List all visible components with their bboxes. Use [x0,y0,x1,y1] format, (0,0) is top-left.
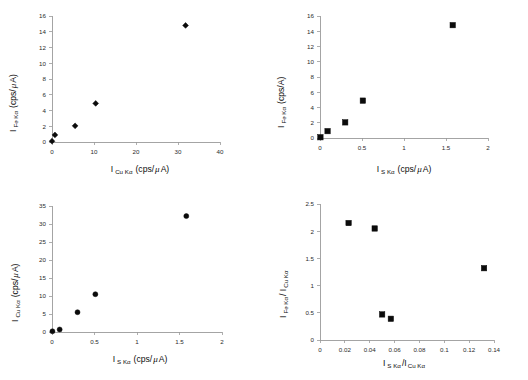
data-point-marker [372,226,377,231]
x-tick-label: 1.5 [175,338,184,345]
y-tick-label: 14 [39,28,46,35]
y-tick-label: 6 [43,91,47,98]
ticklabels-bottom-right: 00.020.040.060.080.10.120.1400.511.522.5 [305,200,500,353]
x-axis-title-bottom-right: IS Kα/ICu Kα [383,358,425,369]
data-point-marker [50,329,55,334]
x-tick-label: 0.02 [339,346,352,353]
ticklabels-top-left: 0102030400246810121416 [39,12,224,155]
y-axis-title-top-right: IFe Kα(cps/A) [276,77,287,128]
plot-top-left: 0102030400246810121416 ICu Kα(cps/μA) IF… [0,0,264,190]
data-point-marker [346,220,351,225]
y-tick-label: 0 [43,138,47,145]
y-tick-label: 2.5 [305,200,314,207]
y-tick-label: 0.5 [305,309,314,316]
y-tick-label: 10 [39,60,46,67]
panel-bottom-left: 00.511.5205101520253035 IS Kα(cps/μA) IC… [0,190,264,380]
y-tick-label: 25 [39,238,46,245]
data-point-marker [72,123,78,129]
ticklabels-bottom-left: 00.511.5205101520253035 [39,202,224,345]
y-tick-label: 1 [311,282,315,289]
axes-bottom-left [49,206,222,335]
x-tick-label: 0.08 [413,346,426,353]
data-point-marker [184,214,189,219]
x-tick-label: 20 [133,148,140,155]
ticklabels-top-right: 00.511.520246810121416 [307,12,490,151]
data-point-marker [360,98,365,103]
y-tick-label: 35 [39,202,46,209]
y-tick-label: 15 [39,274,46,281]
x-tick-label: 0.5 [358,144,367,151]
y-tick-label: 10 [39,292,46,299]
x-tick-label: 0 [50,338,54,345]
y-tick-label: 5 [43,310,47,317]
y-tick-label: 20 [39,256,46,263]
y-tick-label: 6 [311,89,315,96]
y-tick-label: 2 [311,228,315,235]
data-points-bottom-left [50,214,189,334]
y-tick-label: 2 [43,123,47,130]
x-tick-label: 1.5 [442,144,451,151]
y-tick-label: 0 [311,134,315,141]
data-point-marker [343,120,348,125]
panel-top-left: 0102030400246810121416 ICu Kα(cps/μA) IF… [0,0,264,190]
y-axis-title-bottom-right: IFe Kα/ ICu Kα [278,270,289,318]
y-tick-label: 16 [307,12,314,19]
x-tick-label: 0 [50,148,54,155]
y-tick-label: 12 [307,43,314,50]
y-tick-label: 16 [39,12,46,19]
x-tick-label: 30 [175,148,182,155]
four-panel-scatter-figure: 0102030400246810121416 ICu Kα(cps/μA) IF… [0,0,528,380]
x-tick-label: 0 [318,144,322,151]
x-tick-label: 0.06 [389,346,402,353]
panel-bottom-right: 00.020.040.060.080.10.120.1400.511.522.5… [264,190,528,380]
y-tick-label: 0 [311,336,315,343]
y-tick-label: 8 [311,73,315,80]
y-tick-label: 1.5 [305,255,314,262]
y-tick-label: 12 [39,44,46,51]
axes-bottom-right [317,204,494,343]
x-tick-label: 1 [402,144,406,151]
data-point-marker [318,135,323,140]
data-points-top-right [318,22,456,139]
x-tick-label: 0.1 [440,346,449,353]
y-axis-title-top-left: IFe Kα(cps/μA) [8,74,19,132]
plot-bottom-left: 00.511.5205101520253035 IS Kα(cps/μA) IC… [0,190,264,380]
x-axis-title-top-left: ICu Kα(cps/μA) [111,164,170,175]
data-point-marker [183,23,189,29]
y-tick-label: 8 [43,75,47,82]
x-tick-label: 40 [217,148,224,155]
plot-bottom-right: 00.020.040.060.080.10.120.1400.511.522.5… [264,190,528,380]
data-points-bottom-right [346,220,487,321]
x-axis-title-bottom-left: IS Kα(cps/μA) [113,354,168,365]
x-tick-label: 0.12 [463,346,476,353]
x-tick-label: 0 [318,346,322,353]
x-tick-label: 2 [486,144,490,151]
y-tick-label: 14 [307,28,314,35]
x-tick-label: 1 [135,338,139,345]
y-tick-label: 2 [311,119,315,126]
data-point-marker [52,132,58,138]
data-point-marker [379,312,384,317]
data-point-marker [75,310,80,315]
data-point-marker [49,138,55,144]
y-tick-label: 30 [39,220,46,227]
x-axis-title-top-right: IS Kα(cps/μA) [377,164,432,175]
x-tick-label: 0.14 [488,346,501,353]
data-point-marker [450,22,455,27]
y-axis-title-bottom-left: ICu Kα(cps/μA) [10,263,21,322]
x-tick-label: 10 [91,148,98,155]
x-tick-label: 2 [220,338,224,345]
y-tick-label: 4 [311,104,315,111]
x-tick-label: 0.5 [90,338,99,345]
data-point-marker [325,128,330,133]
data-points-top-left [49,23,188,145]
data-point-marker [93,101,99,107]
data-point-marker [93,292,98,297]
plot-top-right: 00.511.520246810121416 IS Kα(cps/μA) IFe… [264,0,528,190]
data-point-marker [388,316,393,321]
y-tick-label: 10 [307,58,314,65]
y-tick-label: 4 [43,107,47,114]
data-point-marker [481,265,486,270]
x-tick-label: 0.04 [364,346,377,353]
panel-top-right: 00.511.520246810121416 IS Kα(cps/μA) IFe… [264,0,528,190]
